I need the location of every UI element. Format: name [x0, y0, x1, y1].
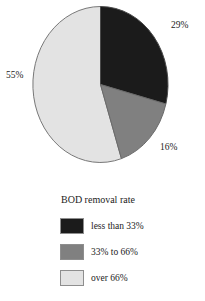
pie-value-label-less-than-33: 29% — [171, 20, 188, 31]
legend-label-less-than-33: less than 33% — [91, 219, 144, 233]
legend-swatch-less-than-33 — [60, 218, 84, 234]
pie-value-label-over-66: 55% — [6, 70, 23, 81]
pie-value-label-33-to-66: 16% — [160, 142, 177, 153]
legend-title: BOD removal rate — [61, 193, 135, 206]
legend-label-33-to-66: 33% to 66% — [91, 245, 138, 259]
legend-swatch-over-66 — [60, 270, 84, 286]
pie-plot-area: 29% 16% 55% — [0, 0, 205, 185]
pie-chart-figure: ............ 29% 16% 55% BOD removal rat… — [0, 0, 205, 301]
legend-item-over-66[interactable]: over 66% — [0, 269, 205, 295]
legend-items: less than 33% 33% to 66% over 66% — [0, 217, 205, 295]
legend-item-33-to-66[interactable]: 33% to 66% — [0, 243, 205, 269]
legend-swatch-33-to-66 — [60, 244, 84, 260]
legend-item-less-than-33[interactable]: less than 33% — [0, 217, 205, 243]
legend-label-over-66: over 66% — [91, 271, 128, 285]
